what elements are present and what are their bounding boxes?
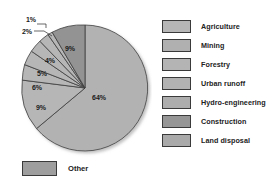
legend-swatch-forestry [162, 58, 191, 71]
legend-item-mining: Mining [162, 36, 277, 55]
legend-label-land-disposal: Land disposal [201, 136, 250, 145]
legend-swatch-other [22, 161, 57, 176]
legend-swatch-mining [162, 39, 191, 52]
slice-label-4: 4% [45, 57, 56, 64]
legend-label-mining: Mining [201, 41, 224, 50]
pie-chart-figure: 64% 9% 9% 6% 5% 4% 2% 1% Other Agricultu… [0, 0, 277, 189]
legend-item-construction: Construction [162, 112, 277, 131]
legend-item-urban-runoff: Urban runoff [162, 74, 277, 93]
pie-chart-area: 64% 9% 9% 6% 5% 4% 2% 1% Other [0, 0, 152, 189]
slice-label-2: 2% [22, 28, 33, 35]
legend-swatch-construction [162, 115, 191, 128]
leader-line-1pct [37, 24, 46, 28]
legend-swatch-hydro-engineering [162, 96, 191, 109]
legend-item-agriculture: Agriculture [162, 17, 277, 36]
legend-label-forestry: Forestry [201, 60, 230, 69]
legend-label-other: Other [68, 164, 88, 173]
slice-label-1: 1% [26, 16, 37, 23]
legend-swatch-urban-runoff [162, 77, 191, 90]
legend-item-forestry: Forestry [162, 55, 277, 74]
legend-label-urban-runoff: Urban runoff [201, 79, 245, 88]
legend-swatch-agriculture [162, 20, 191, 33]
slice-label-9-construction: 9% [65, 45, 76, 52]
legend-swatch-land-disposal [162, 134, 191, 147]
legend-item-other: Other [22, 161, 88, 176]
legend-label-agriculture: Agriculture [201, 22, 240, 31]
legend-list: Agriculture Mining Forestry Urban runoff… [162, 17, 277, 150]
legend-item-hydro-engineering: Hydro-engineering [162, 93, 277, 112]
legend-label-construction: Construction [201, 117, 246, 126]
slice-label-5: 5% [37, 70, 48, 77]
slice-label-64: 64% [92, 94, 107, 101]
leader-lines-group [34, 24, 52, 36]
slice-label-6: 6% [32, 84, 43, 91]
legend-label-hydro-engineering: Hydro-engineering [201, 98, 266, 107]
legend: Agriculture Mining Forestry Urban runoff… [152, 0, 277, 189]
slice-label-9-land-disposal: 9% [36, 104, 47, 111]
legend-item-land-disposal: Land disposal [162, 131, 277, 150]
